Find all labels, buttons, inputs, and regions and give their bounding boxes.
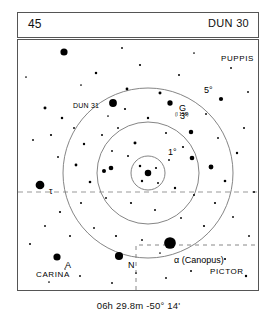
star-chart-page: 45 DUN 30 1°3°5°PUPPISCARINAPICTORDUN 31… [0,0,277,322]
star-dot [93,227,95,229]
star-label: τ [49,187,53,196]
star-label: DUN 31 [73,102,99,109]
star-dot [127,155,129,157]
star-dot [159,92,162,95]
star-dot [230,67,232,69]
star-dot [247,91,249,93]
constellation-label-carina: CARINA [36,271,70,279]
star-dot [73,127,75,129]
star-dot [135,272,137,274]
star-dot [145,170,152,177]
star-dot [111,150,113,152]
star-dot [121,47,123,49]
star-dot [165,277,167,279]
star-dot [111,282,113,284]
star-dot [236,152,238,154]
star-dot [248,235,250,237]
star-dot [53,253,60,260]
star-dot [205,113,207,115]
constellation-label-pictor: PICTOR [210,268,244,276]
star-dot [44,107,47,110]
star-dot [174,187,176,189]
star-dot [60,48,67,55]
star-dot [130,202,132,204]
star-dot [154,209,156,211]
star-dot [243,127,245,129]
star-chart-frame: 1°3°5°PUPPISCARINAPICTORDUN 31G(I 156)τN… [17,39,259,291]
star-dot [124,108,126,110]
star-dot [209,165,214,170]
star-dot [117,127,119,129]
star-dot [59,211,61,213]
star-dot [164,237,176,249]
star-dot [178,74,180,76]
star-dot [253,191,255,193]
ring-label-5deg: 5° [204,86,213,95]
star-dot [224,258,226,260]
star-label: N [128,261,135,270]
star-dot [83,143,85,145]
star-dot [109,166,114,171]
star-dot [189,130,194,135]
star-dot [89,181,92,184]
star-dot [44,225,46,227]
constellation-label-puppis: PUPPIS [221,55,254,63]
star-dot [165,132,167,134]
star-dot [79,275,81,277]
star-dot [95,72,97,74]
star-dot [214,202,216,204]
star-dot [57,156,59,158]
star-dot [141,180,143,182]
star-dot [141,239,143,241]
star-dot [32,139,34,141]
star-label: A [65,261,71,270]
star-dot [219,97,223,101]
star-dot [167,100,172,105]
star-dot [203,225,205,227]
star-dot [80,84,82,86]
coordinates-caption: 06h 29.8m -50° 14' [0,300,277,311]
star-dot [217,137,219,139]
star-label: (I 156) [175,113,189,118]
star-dot [101,134,103,136]
star-dot [155,167,157,169]
star-dot [61,117,63,119]
star-dot [29,243,31,245]
star-dot [147,117,149,119]
star-dot [190,270,192,272]
star-dot [224,180,227,183]
star-dot [48,281,50,283]
star-dot [126,88,129,91]
star-markers [25,47,255,284]
star-dot [232,216,234,218]
star-field-plot [18,40,258,290]
star-dot [182,146,184,148]
star-dot [159,252,161,254]
chart-header-bar: 45 DUN 30 [17,12,259,38]
page-number: 45 [28,17,42,31]
star-dot [50,134,52,136]
star-dot [168,159,170,161]
star-dot [134,142,137,145]
star-dot [193,194,195,196]
star-dot [193,52,195,54]
star-dot [115,252,123,260]
star-dot [190,156,195,161]
star-dot [105,197,107,199]
star-dot [69,235,71,237]
star-dot [75,164,78,167]
star-dot [107,115,109,117]
star-dot [25,76,27,78]
star-dot [109,99,117,107]
star-dot [80,202,82,204]
star-dot [157,182,159,184]
ring-label-1deg: 1° [168,148,177,157]
star-label: α (Canopus) [174,256,224,265]
star-dot [180,217,182,219]
star-dot [245,275,247,277]
star-dot [115,235,117,237]
star-dot [139,165,141,167]
star-dot [139,64,141,66]
star-dot [102,169,106,173]
star-dot [36,181,45,190]
